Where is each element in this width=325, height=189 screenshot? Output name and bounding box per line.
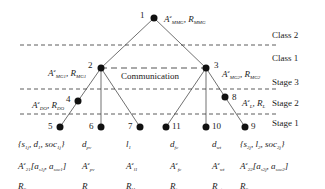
- node-8: [222, 94, 229, 101]
- node-10-labels: dwtAewtRwt: [212, 136, 224, 189]
- node-3-label: AeMG2, RMG2: [222, 67, 260, 83]
- node-11-labels: dfcAefcRfc: [170, 136, 181, 189]
- label-class-2: Class 2: [272, 30, 298, 40]
- node-5: [57, 124, 64, 131]
- node-1-label: AeMMG, RMMG: [164, 12, 206, 28]
- node-6-id: 6: [89, 121, 94, 131]
- node-2: [98, 65, 105, 72]
- node-7: [137, 124, 144, 131]
- node-5-labels: {s1j, d1, soc1j}Ae21[as1j, asoc1]RS: [18, 136, 66, 189]
- node-9: [242, 124, 249, 131]
- node-9-id: 9: [251, 121, 256, 131]
- label-stage-3: Stage 3: [272, 77, 299, 87]
- node-6: [98, 124, 105, 131]
- communication-label: Communication: [121, 71, 179, 81]
- node-2-label: AeMG1, RMG1: [48, 66, 86, 82]
- node-1-id: 1: [140, 10, 145, 20]
- node-7-labels: l1Ael1Rl1: [126, 136, 138, 189]
- node-4: [75, 98, 82, 105]
- node-6-labels: dpvAepvRpv: [82, 136, 94, 189]
- node-11-id: 11: [172, 121, 181, 131]
- node-8-label: AeL, RL: [242, 96, 265, 112]
- node-4-label: AeDO, RDO: [32, 98, 64, 114]
- node-7-id: 7: [128, 121, 133, 131]
- node-11: [163, 124, 170, 131]
- node-2-id: 2: [88, 60, 93, 70]
- node-8-id: 8: [232, 92, 237, 102]
- node-3-id: 3: [214, 60, 219, 70]
- node-10-id: 10: [212, 121, 221, 131]
- node-9-labels: {s2j, l2, soc2j}Ae22[as2j, asoc2]RS: [240, 136, 288, 189]
- label-stage-1: Stage 1: [272, 118, 299, 128]
- node-10: [203, 124, 210, 131]
- node-3: [203, 65, 210, 72]
- node-4-id: 4: [66, 94, 71, 104]
- node-5-id: 5: [48, 121, 53, 131]
- label-class-1: Class 1: [272, 53, 298, 63]
- node-1: [151, 15, 158, 22]
- label-stage-2: Stage 2: [272, 98, 299, 108]
